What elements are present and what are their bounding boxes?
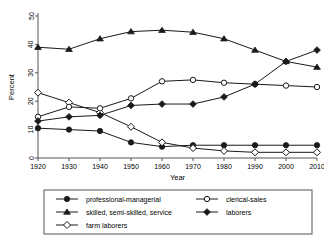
filled-diamond-marker: [159, 101, 166, 108]
filled-circle-marker: [128, 140, 133, 145]
legend-label: professional-managerial: [86, 196, 161, 204]
series-path: [38, 80, 317, 117]
x-tick-label: 1940: [92, 163, 108, 170]
open-circle-marker: [283, 83, 288, 88]
x-tick-label: 2010: [309, 163, 324, 170]
open-circle-marker: [66, 104, 71, 109]
y-tick-label: 30: [28, 69, 35, 77]
x-tick-label: 1930: [61, 163, 77, 170]
x-axis: 1920193019401950196019701980199020002010…: [30, 158, 324, 182]
open-diamond-marker: [251, 149, 258, 156]
open-circle-marker: [97, 106, 102, 111]
series-path: [38, 93, 317, 153]
filled-circle-marker: [64, 196, 69, 201]
filled-circle-marker: [97, 128, 102, 133]
legend-label: clerical-sales: [226, 196, 267, 203]
y-tick-label: 0: [28, 156, 35, 160]
open-circle-marker: [221, 80, 226, 85]
series-path: [38, 30, 317, 67]
filled-diamond-marker: [221, 94, 228, 101]
y-tick-label: 50: [28, 12, 35, 20]
x-tick-label: 1990: [247, 163, 263, 170]
chart-canvas: 01020304050Percent1920193019401950196019…: [0, 0, 324, 239]
open-circle-marker: [204, 196, 209, 201]
legend-label: laborers: [226, 209, 252, 216]
y-axis-title: Percent: [7, 73, 16, 100]
filled-diamond-marker: [252, 81, 259, 88]
legend-label: skilled, semi-skilled, service: [86, 209, 172, 216]
filled-diamond-marker: [128, 102, 135, 109]
filled-circle-marker: [283, 143, 288, 148]
series-skilled-semi-skilled-service: [35, 27, 321, 69]
open-circle-marker: [159, 79, 164, 84]
filled-diamond-marker: [66, 113, 73, 120]
chart-legend: professional-managerialclerical-salesski…: [44, 190, 312, 234]
legend-border: [44, 190, 312, 234]
x-tick-label: 1960: [154, 163, 170, 170]
open-diamond-marker: [127, 123, 134, 130]
filled-triangle-marker: [159, 27, 166, 32]
open-circle-marker: [190, 77, 195, 82]
x-tick-label: 2000: [278, 163, 294, 170]
legend-label: farm laborers: [86, 222, 128, 229]
filled-diamond-marker: [314, 47, 321, 54]
y-tick-label: 40: [28, 40, 35, 48]
filled-circle-marker: [314, 143, 319, 148]
y-tick-label: 20: [28, 97, 35, 105]
open-diamond-marker: [220, 147, 227, 154]
series-professional-managerial: [35, 125, 319, 149]
open-circle-marker: [128, 96, 133, 101]
filled-triangle-marker: [35, 44, 42, 49]
filled-circle-marker: [35, 125, 40, 130]
x-tick-label: 1920: [30, 163, 46, 170]
filled-circle-marker: [252, 143, 257, 148]
x-tick-label: 1980: [216, 163, 232, 170]
occupation-share-line-chart: 01020304050Percent1920193019401950196019…: [0, 0, 324, 239]
x-tick-label: 1950: [123, 163, 139, 170]
x-axis-title: Year: [170, 173, 186, 182]
y-axis: 01020304050Percent: [7, 12, 39, 160]
x-tick-label: 1970: [185, 163, 201, 170]
open-diamond-marker: [282, 149, 289, 156]
filled-circle-marker: [66, 127, 71, 132]
series-path: [38, 128, 317, 146]
open-diamond-marker: [34, 89, 41, 96]
filled-diamond-marker: [190, 101, 197, 108]
open-circle-marker: [314, 84, 319, 89]
series-clerical-sales: [35, 77, 319, 119]
open-diamond-marker: [313, 149, 320, 156]
y-tick-label: 10: [28, 126, 35, 134]
